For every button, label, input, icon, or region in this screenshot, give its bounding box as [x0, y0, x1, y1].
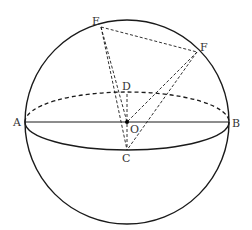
- segment-FO: [127, 52, 197, 122]
- sphere-diagram: A B O C D E F: [0, 0, 252, 230]
- point-O-dot: [125, 120, 129, 124]
- segment-EF: [101, 27, 197, 52]
- segment-EO: [101, 27, 127, 122]
- label-F: F: [200, 41, 208, 54]
- label-O: O: [130, 123, 139, 136]
- label-D: D: [122, 80, 131, 93]
- label-E: E: [92, 15, 100, 28]
- label-B: B: [232, 117, 240, 130]
- label-A: A: [12, 116, 22, 129]
- label-C: C: [122, 152, 130, 165]
